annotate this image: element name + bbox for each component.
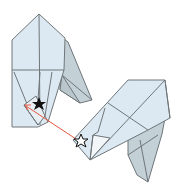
left-model: [12, 14, 92, 127]
origami-diagram: Move the hollow star corner to the fille…: [0, 0, 179, 195]
